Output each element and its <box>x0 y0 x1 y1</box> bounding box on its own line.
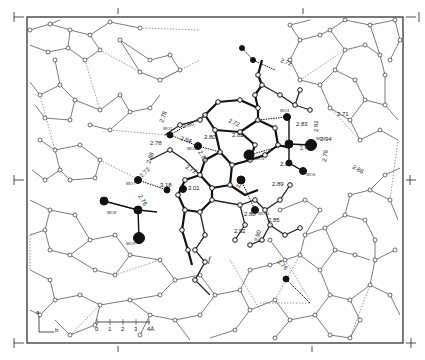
svg-text:2.80: 2.80 <box>204 134 216 140</box>
svg-text:2.82: 2.82 <box>313 120 319 132</box>
svg-text:WO1: WO1 <box>163 126 173 131</box>
italic-marker: f <box>208 254 212 264</box>
svg-text:WO3: WO3 <box>280 108 290 113</box>
axis-markers <box>14 8 419 352</box>
svg-text:WO5: WO5 <box>255 156 265 161</box>
svg-text:3.01: 3.01 <box>188 185 200 191</box>
svg-text:2: 2 <box>121 326 125 332</box>
svg-text:0: 0 <box>95 326 99 332</box>
axes-inset <box>39 316 54 332</box>
svg-text:WO8: WO8 <box>107 210 117 215</box>
hydrogen-bonds <box>30 28 398 338</box>
scale-bar: 0 1 2 3 4Å <box>95 319 154 332</box>
svg-text:WO4: WO4 <box>316 136 326 141</box>
svg-text:WO2: WO2 <box>187 146 197 151</box>
svg-text:WO9: WO9 <box>126 241 136 246</box>
svg-text:3: 3 <box>134 326 138 332</box>
axis-b-label: b <box>55 327 59 333</box>
svg-text:2.72: 2.72 <box>228 117 242 128</box>
svg-text:2.78: 2.78 <box>321 149 329 162</box>
svg-text:2.80: 2.80 <box>244 211 256 217</box>
svg-text:2.78: 2.78 <box>158 110 168 124</box>
svg-text:2.82: 2.82 <box>232 132 244 138</box>
svg-text:1: 1 <box>108 326 112 332</box>
svg-text:WO6: WO6 <box>306 172 316 177</box>
svg-text:2.85: 2.85 <box>268 217 280 223</box>
crystal-structure-figure: 2.78 2.78 2.80 2.84 2.80 2.75 2.72 2.72 … <box>0 0 425 360</box>
distance-labels: 2.78 2.78 2.80 2.84 2.80 2.75 2.72 2.72 … <box>137 57 365 271</box>
svg-text:2.89: 2.89 <box>272 181 284 187</box>
svg-text:2.76: 2.76 <box>137 194 148 208</box>
svg-text:2.72: 2.72 <box>138 166 151 179</box>
svg-text:2.91: 2.91 <box>235 175 243 188</box>
svg-text:3.18: 3.18 <box>160 182 172 188</box>
svg-text:2.84: 2.84 <box>180 135 193 144</box>
svg-text:2.78: 2.78 <box>150 140 162 146</box>
water-network <box>30 20 400 340</box>
svg-text:2.80: 2.80 <box>182 120 195 129</box>
svg-text:4Å: 4Å <box>147 326 154 332</box>
svg-text:2.80: 2.80 <box>280 161 292 167</box>
svg-text:2.72: 2.72 <box>185 164 199 175</box>
svg-text:2.76: 2.76 <box>276 258 289 271</box>
svg-text:WO10: WO10 <box>258 211 270 216</box>
svg-text:2.92: 2.92 <box>234 228 246 234</box>
svg-text:2.86: 2.86 <box>352 164 366 175</box>
svg-text:WO7: WO7 <box>126 181 136 186</box>
svg-text:2.83: 2.83 <box>296 121 308 127</box>
svg-text:2.71: 2.71 <box>337 111 349 117</box>
